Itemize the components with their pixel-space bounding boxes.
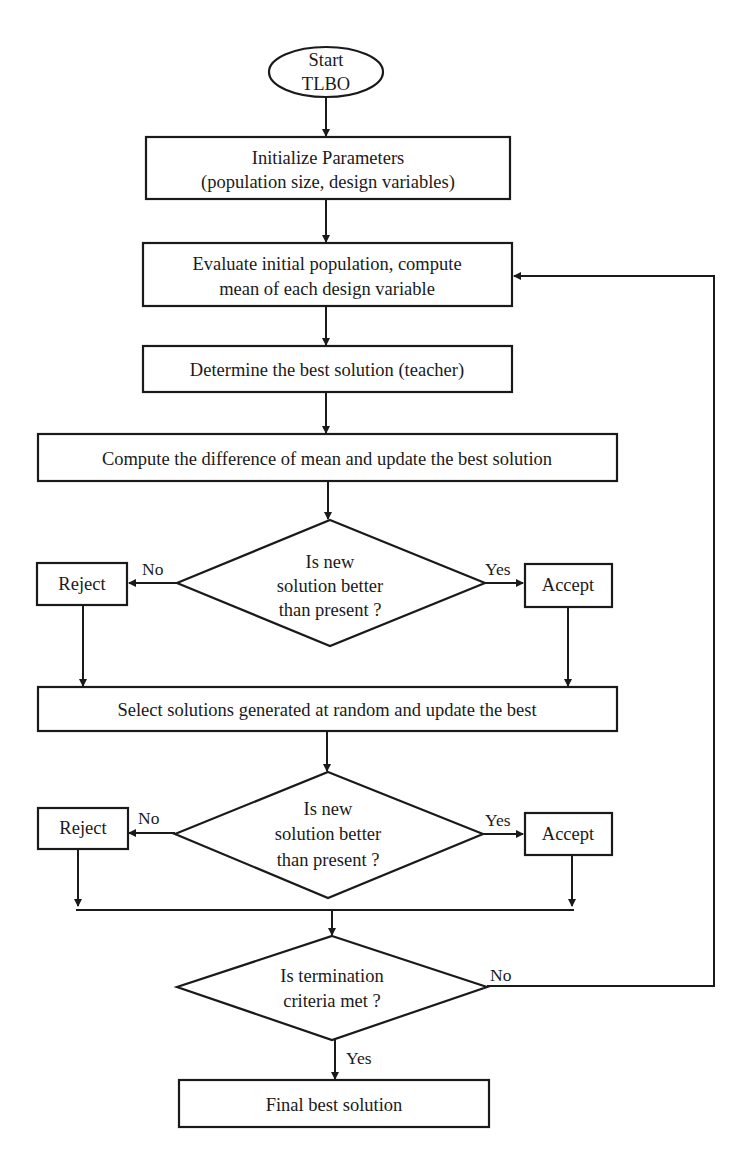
start-label-line1: Start — [309, 50, 345, 70]
decision2-label-line3: than present ? — [277, 850, 380, 870]
evaluate-label-line1: Evaluate initial population, compute — [192, 254, 461, 274]
decision1-yes-label: Yes — [485, 559, 511, 579]
decision1-label-line3: than present ? — [279, 600, 382, 620]
reject2-label: Reject — [59, 818, 107, 838]
difference-label: Compute the difference of mean and updat… — [102, 449, 552, 469]
start-node: Start TLBO — [269, 47, 383, 97]
evaluate-node: Evaluate initial population, compute mea… — [143, 243, 512, 306]
select-node: Select solutions generated at random and… — [38, 687, 617, 731]
termination-label-line1: Is termination — [280, 966, 383, 986]
arrow-loop-back-to-evaluate — [487, 276, 714, 986]
accept1-label: Accept — [542, 575, 595, 595]
decision1-label-line1: Is new — [306, 552, 355, 572]
termination-node: Is termination criteria met ? — [177, 936, 487, 1040]
evaluate-label-line2: mean of each design variable — [219, 279, 435, 299]
select-label: Select solutions generated at random and… — [117, 700, 537, 720]
termination-label-line2: criteria met ? — [283, 991, 381, 1011]
decision2-yes-label: Yes — [485, 810, 511, 830]
decision1-label-line2: solution better — [277, 576, 383, 596]
decision1-node: Is new solution better than present ? — [177, 520, 485, 646]
accept1-node: Accept — [525, 564, 612, 607]
accept2-label: Accept — [542, 824, 595, 844]
decision2-label-line1: Is new — [304, 799, 353, 819]
final-node: Final best solution — [179, 1080, 489, 1127]
init-node: Initialize Parameters (population size, … — [146, 137, 510, 199]
decision2-node: Is new solution better than present ? — [175, 772, 483, 898]
init-label-line2: (population size, design variables) — [201, 172, 455, 193]
teacher-label: Determine the best solution (teacher) — [190, 360, 464, 381]
decision2-no-label: No — [138, 808, 160, 828]
difference-node: Compute the difference of mean and updat… — [38, 434, 617, 481]
accept2-node: Accept — [525, 813, 612, 855]
termination-yes-label: Yes — [346, 1048, 372, 1068]
tlbo-flowchart: Start TLBO Initialize Parameters (popula… — [0, 0, 743, 1161]
decision2-label-line2: solution better — [275, 824, 381, 844]
final-label: Final best solution — [266, 1095, 403, 1115]
termination-no-label: No — [490, 965, 512, 985]
init-label-line1: Initialize Parameters — [252, 148, 405, 168]
reject1-label: Reject — [58, 574, 106, 594]
reject1-node: Reject — [37, 563, 127, 605]
reject2-node: Reject — [38, 808, 128, 849]
start-label-line2: TLBO — [302, 74, 350, 94]
decision1-no-label: No — [142, 559, 164, 579]
teacher-node: Determine the best solution (teacher) — [143, 346, 512, 392]
